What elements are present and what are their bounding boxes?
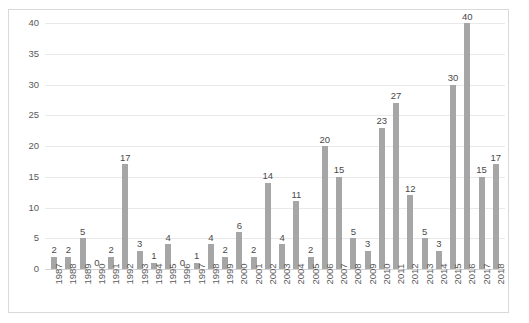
bar-value-label-2018: 17 xyxy=(491,153,502,163)
bar-slot-2015[interactable]: 30 xyxy=(446,23,460,269)
bar-slot-2002[interactable]: 14 xyxy=(261,23,275,269)
bar-2006[interactable] xyxy=(322,146,328,269)
bar-slot-1990[interactable]: 0 xyxy=(90,23,104,269)
bar-slot-2006[interactable]: 20 xyxy=(318,23,332,269)
bar-slot-2013[interactable]: 5 xyxy=(418,23,432,269)
bar-slot-2007[interactable]: 15 xyxy=(332,23,346,269)
x-axis-slot-2011: 2011 xyxy=(389,272,403,312)
bar-slot-2014[interactable]: 3 xyxy=(432,23,446,269)
x-axis-slot-1988: 1988 xyxy=(61,272,75,312)
x-axis-slot-2010: 2010 xyxy=(375,272,389,312)
bar-slot-1988[interactable]: 2 xyxy=(61,23,75,269)
y-axis-tick-labels: 0510152025303540 xyxy=(17,10,39,312)
bar-slot-1991[interactable]: 2 xyxy=(104,23,118,269)
bar-value-label-2009: 3 xyxy=(365,239,370,249)
bar-slot-1994[interactable]: 1 xyxy=(147,23,161,269)
bar-slot-2012[interactable]: 12 xyxy=(403,23,417,269)
bar-value-label-2011: 27 xyxy=(391,91,402,101)
bar-slot-2004[interactable]: 11 xyxy=(289,23,303,269)
bar-slot-1987[interactable]: 2 xyxy=(47,23,61,269)
x-axis-slot-2016: 2016 xyxy=(460,272,474,312)
bar-2017[interactable] xyxy=(479,177,485,269)
bar-2010[interactable] xyxy=(379,128,385,269)
x-axis-slot-1998: 1998 xyxy=(204,272,218,312)
bar-slot-2016[interactable]: 40 xyxy=(460,23,474,269)
chart-plot-area: 0510152025303540 22502173140142621441122… xyxy=(9,10,508,312)
x-axis-slot-2002: 2002 xyxy=(261,272,275,312)
bar-value-label-2008: 5 xyxy=(351,227,356,237)
x-axis-slot-2007: 2007 xyxy=(332,272,346,312)
bar-slot-2003[interactable]: 4 xyxy=(275,23,289,269)
y-axis-tick-label: 35 xyxy=(28,49,39,59)
bar-2016[interactable] xyxy=(464,23,470,269)
bar-value-label-1995: 4 xyxy=(165,233,170,243)
x-axis-slot-1990: 1990 xyxy=(90,272,104,312)
x-axis-slot-2013: 2013 xyxy=(418,272,432,312)
bar-2002[interactable] xyxy=(265,183,271,269)
x-axis-slot-2014: 2014 xyxy=(432,272,446,312)
x-axis-slot-2006: 2006 xyxy=(318,272,332,312)
bar-value-label-1997: 1 xyxy=(194,251,199,261)
y-axis-tick-label: 10 xyxy=(28,203,39,213)
bar-value-label-2007: 15 xyxy=(334,165,345,175)
x-axis-slot-1989: 1989 xyxy=(76,272,90,312)
x-axis-tick-labels: 1987198819891990199119921993199419951996… xyxy=(45,272,505,312)
bar-slot-2001[interactable]: 2 xyxy=(247,23,261,269)
x-axis-slot-2005: 2005 xyxy=(304,272,318,312)
x-axis-slot-2018: 2018 xyxy=(489,272,503,312)
bar-slot-2009[interactable]: 3 xyxy=(361,23,375,269)
y-axis-tick-label: 0 xyxy=(34,264,39,274)
y-axis-tick-label: 5 xyxy=(34,234,39,244)
bar-2018[interactable] xyxy=(493,164,499,269)
bar-slot-2008[interactable]: 5 xyxy=(346,23,360,269)
x-axis-slot-2009: 2009 xyxy=(361,272,375,312)
bar-value-label-1993: 3 xyxy=(137,239,142,249)
bar-value-label-1988: 2 xyxy=(66,245,71,255)
bar-value-label-2004: 11 xyxy=(291,190,301,200)
bar-2007[interactable] xyxy=(336,177,342,269)
x-axis-slot-1996: 1996 xyxy=(175,272,189,312)
bar-value-label-1999: 2 xyxy=(222,245,227,255)
x-axis-slot-2001: 2001 xyxy=(247,272,261,312)
x-axis-slot-2017: 2017 xyxy=(475,272,489,312)
bar-slot-2010[interactable]: 23 xyxy=(375,23,389,269)
bar-2015[interactable] xyxy=(450,85,456,270)
bar-value-label-2013: 5 xyxy=(422,227,427,237)
bar-value-label-2000: 6 xyxy=(237,221,242,231)
bar-slot-1992[interactable]: 17 xyxy=(118,23,132,269)
bar-slot-1996[interactable]: 0 xyxy=(175,23,189,269)
bar-2012[interactable] xyxy=(407,195,413,269)
x-axis-slot-1993: 1993 xyxy=(133,272,147,312)
bar-value-label-1992: 17 xyxy=(120,153,131,163)
bar-2004[interactable] xyxy=(293,201,299,269)
x-axis-slot-1992: 1992 xyxy=(118,272,132,312)
bar-value-label-2015: 30 xyxy=(448,73,459,83)
bar-value-label-2005: 2 xyxy=(308,245,313,255)
bar-value-label-1987: 2 xyxy=(51,245,56,255)
bar-value-label-2001: 2 xyxy=(251,245,256,255)
y-axis-tick-label: 20 xyxy=(28,141,39,151)
bar-value-label-2010: 23 xyxy=(377,116,388,126)
bar-slot-2011[interactable]: 27 xyxy=(389,23,403,269)
bar-slot-1998[interactable]: 4 xyxy=(204,23,218,269)
bar-value-label-2002: 14 xyxy=(263,171,274,181)
bar-slot-1993[interactable]: 3 xyxy=(133,23,147,269)
bar-slot-2018[interactable]: 17 xyxy=(489,23,503,269)
x-axis-slot-2008: 2008 xyxy=(346,272,360,312)
bar-value-label-2017: 15 xyxy=(476,165,487,175)
bar-slot-1999[interactable]: 2 xyxy=(218,23,232,269)
bar-slot-2000[interactable]: 6 xyxy=(232,23,246,269)
bar-slot-1995[interactable]: 4 xyxy=(161,23,175,269)
bar-2011[interactable] xyxy=(393,103,399,269)
y-axis-tick-label: 30 xyxy=(28,80,39,90)
bar-slot-1997[interactable]: 1 xyxy=(190,23,204,269)
chart-frame: 0510152025303540 22502173140142621441122… xyxy=(8,9,509,313)
bar-slot-2017[interactable]: 15 xyxy=(475,23,489,269)
bar-slot-1989[interactable]: 5 xyxy=(76,23,90,269)
x-axis-tick-label-2018: 2018 xyxy=(496,263,506,284)
bar-1992[interactable] xyxy=(122,164,128,269)
x-axis-slot-2015: 2015 xyxy=(446,272,460,312)
x-axis-slot-2000: 2000 xyxy=(232,272,246,312)
bar-slot-2005[interactable]: 2 xyxy=(304,23,318,269)
x-axis-slot-1999: 1999 xyxy=(218,272,232,312)
